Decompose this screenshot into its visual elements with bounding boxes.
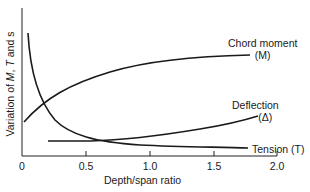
chord-moment-label: Chord moment (M)	[228, 37, 297, 61]
x-tick-label: 1.0	[143, 160, 158, 172]
deflection-label: Deflection (Δ)	[232, 99, 279, 123]
chart: Variation of M, T and s 0 0.5 1.0 1.5 2.…	[0, 0, 310, 192]
tension-label: Tension (T)	[252, 143, 305, 155]
x-tick-label: 2.0	[270, 160, 285, 172]
x-tick-label: 1.5	[207, 160, 222, 172]
x-tick-label: 0	[19, 160, 25, 172]
x-tick-label: 0.5	[79, 160, 94, 172]
x-ticks	[86, 151, 277, 156]
series-chord-moment	[24, 55, 250, 122]
x-axis-label: Depth/span ratio	[104, 174, 181, 186]
series-deflection	[48, 116, 258, 141]
y-axis-label: Variation of M, T and s	[4, 19, 16, 149]
series-tension	[28, 33, 248, 148]
